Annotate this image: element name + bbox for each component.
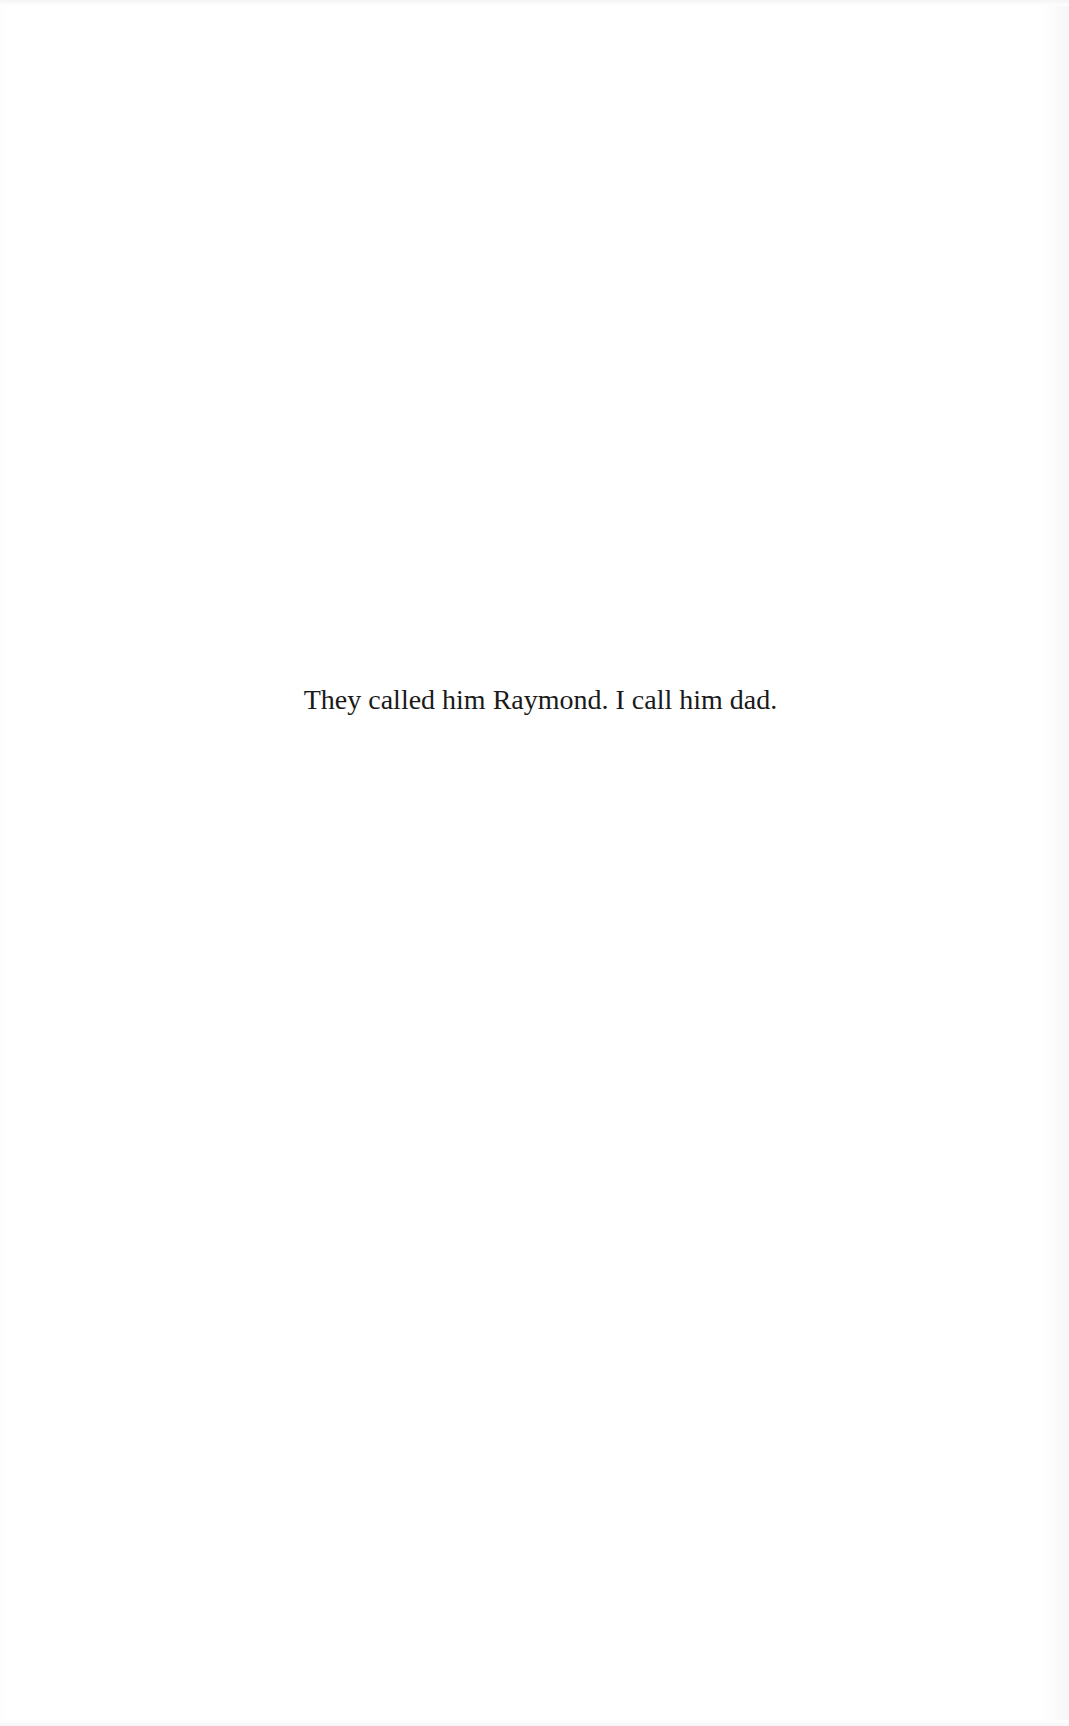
dedication-text: They called him Raymond. I call him dad.: [0, 682, 1069, 718]
scan-top-edge: [0, 0, 1069, 6]
document-page: They called him Raymond. I call him dad.: [0, 0, 1069, 1726]
scan-bottom-edge: [0, 1720, 1069, 1726]
